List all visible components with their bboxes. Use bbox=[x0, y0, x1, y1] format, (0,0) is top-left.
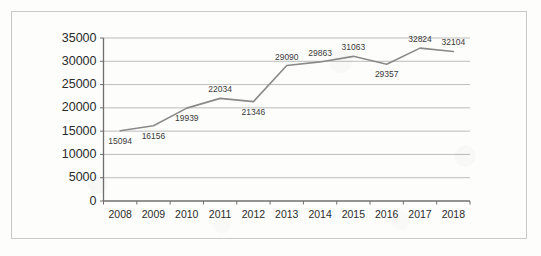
y-axis-tick-label: 20000 bbox=[62, 101, 97, 114]
data-point-label: 21346 bbox=[236, 108, 270, 117]
data-point-label: 19939 bbox=[170, 114, 204, 123]
data-point-label: 29357 bbox=[370, 70, 404, 79]
data-point-label: 31063 bbox=[336, 43, 370, 52]
data-point-label: 15094 bbox=[103, 137, 137, 146]
y-axis-tick-label: 15000 bbox=[62, 125, 97, 138]
chart-screenshot: 35000300002500020000150001000050000 2008… bbox=[0, 0, 541, 256]
y-axis-tick-label: 35000 bbox=[62, 32, 97, 45]
data-point-label: 29090 bbox=[270, 53, 304, 62]
y-axis-tick-label: 10000 bbox=[62, 148, 97, 161]
data-point-label: 22034 bbox=[203, 85, 237, 94]
data-point-label: 29863 bbox=[303, 49, 337, 58]
y-axis-tick-label: 30000 bbox=[62, 55, 97, 68]
x-axis-tick-label: 2018 bbox=[433, 209, 473, 220]
y-axis-tick-label: 5000 bbox=[69, 171, 97, 184]
y-axis-tick-label: 0 bbox=[90, 195, 97, 208]
data-point-label: 16156 bbox=[136, 132, 170, 141]
data-point-label: 32104 bbox=[436, 38, 470, 47]
y-axis-tick-label: 25000 bbox=[62, 78, 97, 91]
data-point-label: 32824 bbox=[403, 35, 437, 44]
